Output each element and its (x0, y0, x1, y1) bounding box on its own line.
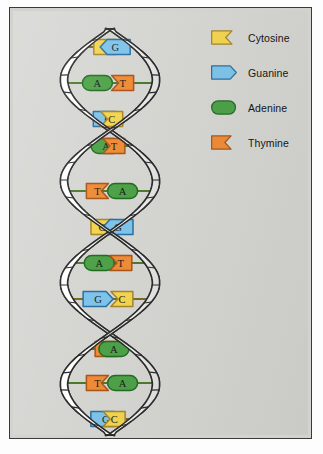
base-letter: T (119, 78, 126, 89)
legend-label-guanine: Guanine (248, 67, 288, 79)
legend-item-cytosine: Cytosine (209, 25, 313, 50)
dna-figure: CGATGCATTACGATGCTATAGC Cytosine Guanine (0, 0, 323, 454)
base-letter: A (119, 186, 127, 197)
legend-item-thymine: Thymine (209, 130, 313, 155)
thymine-swatch-icon (209, 134, 239, 151)
nucleotide-adenine: A (84, 256, 114, 271)
base-letter: A (95, 258, 103, 269)
base-letter: T (118, 258, 125, 269)
adenine-swatch-icon (209, 99, 239, 116)
base-letter: G (94, 294, 102, 305)
legend-item-guanine: Guanine (209, 60, 313, 85)
base-letter: C (111, 414, 118, 425)
nucleotide-adenine: A (82, 76, 112, 91)
legend: Cytosine Guanine Adenine (209, 25, 313, 165)
nucleotide-group: CGATGCATTACGATGCTATAGC (60, 28, 159, 435)
base-letter: T (94, 378, 101, 389)
legend-label-adenine: Adenine (248, 102, 287, 114)
base-letter: C (108, 114, 115, 125)
base-letter: A (119, 378, 127, 389)
cytosine-swatch-icon (209, 29, 239, 46)
nucleotide-guanine: G (83, 292, 113, 307)
base-letter: T (94, 186, 101, 197)
legend-label-thymine: Thymine (248, 137, 289, 149)
base-letter: A (94, 78, 102, 89)
legend-label-cytosine: Cytosine (248, 32, 290, 44)
base-letter: A (110, 344, 118, 355)
nucleotide-adenine: A (108, 184, 138, 199)
legend-item-adenine: Adenine (209, 95, 313, 120)
base-letter: C (118, 294, 125, 305)
base-letter: T (111, 141, 118, 152)
guanine-swatch-icon (209, 64, 239, 81)
right-backbone-front (60, 28, 159, 435)
nucleotide-adenine: A (108, 376, 138, 391)
base-letter: G (111, 42, 119, 53)
figure-inner: CGATGCATTACGATGCTATAGC Cytosine Guanine (13, 11, 308, 435)
figure-plate: CGATGCATTACGATGCTATAGC Cytosine Guanine (9, 7, 312, 439)
